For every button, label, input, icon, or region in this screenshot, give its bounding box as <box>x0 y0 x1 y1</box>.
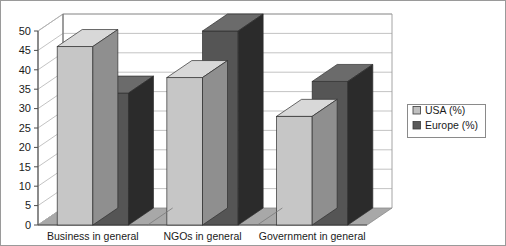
chart-canvas: 05101520253035404550 Business in general… <box>0 0 506 246</box>
bar-side-face <box>203 61 228 225</box>
y-tick-label: 30 <box>19 102 31 114</box>
y-tick-label: 10 <box>19 180 31 192</box>
bar-chart-container: 05101520253035404550 Business in general… <box>0 0 506 246</box>
legend: USA (%)Europe (%) <box>408 104 486 138</box>
bar-side-face <box>93 30 118 225</box>
bar[interactable] <box>57 30 118 225</box>
y-tick-label: 0 <box>25 219 31 231</box>
y-tick-label: 20 <box>19 141 31 153</box>
bar-front-face <box>167 78 203 225</box>
category-label: Government in general <box>259 230 366 242</box>
y-tick-label: 40 <box>19 64 31 76</box>
legend-swatch <box>413 122 421 130</box>
category-label: Business in general <box>47 230 139 242</box>
y-tick-label: 35 <box>19 83 31 95</box>
y-tick-label: 50 <box>19 25 31 37</box>
bar-side-face <box>238 14 263 225</box>
bar[interactable] <box>277 99 338 225</box>
bar-front-face <box>57 47 93 225</box>
legend-label: USA (%) <box>425 104 465 116</box>
legend-label: Europe (%) <box>425 119 478 131</box>
category-label-group: Business in generalNGOs in generalGovern… <box>47 230 366 242</box>
y-tick-label: 25 <box>19 122 31 134</box>
bar-side-face <box>348 64 373 225</box>
bar-side-face <box>128 76 153 225</box>
y-tick-label: 5 <box>25 199 31 211</box>
bar[interactable] <box>167 61 228 225</box>
plot-area: 05101520253035404550 Business in general… <box>19 14 392 242</box>
y-tick-label: 45 <box>19 44 31 56</box>
y-tick-label: 15 <box>19 161 31 173</box>
legend-swatch <box>413 107 421 115</box>
bar-side-face <box>312 99 337 225</box>
category-label: NGOs in general <box>163 230 241 242</box>
